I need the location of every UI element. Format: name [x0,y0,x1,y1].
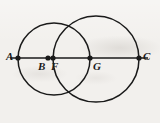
circles-group [18,16,139,102]
point-g-dot [87,55,92,60]
geometry-figure: ABFGC [0,0,160,123]
point-b-dot [45,55,50,60]
point-a-dot [15,55,20,60]
point-c-dot [136,55,141,60]
point-label-a: A [6,51,13,62]
geometry-canvas [0,0,160,123]
point-label-g: G [93,61,101,72]
point-label-c: C [143,51,150,62]
point-label-b: B [38,61,45,72]
right-circle [53,16,139,102]
point-label-f: F [51,61,58,72]
